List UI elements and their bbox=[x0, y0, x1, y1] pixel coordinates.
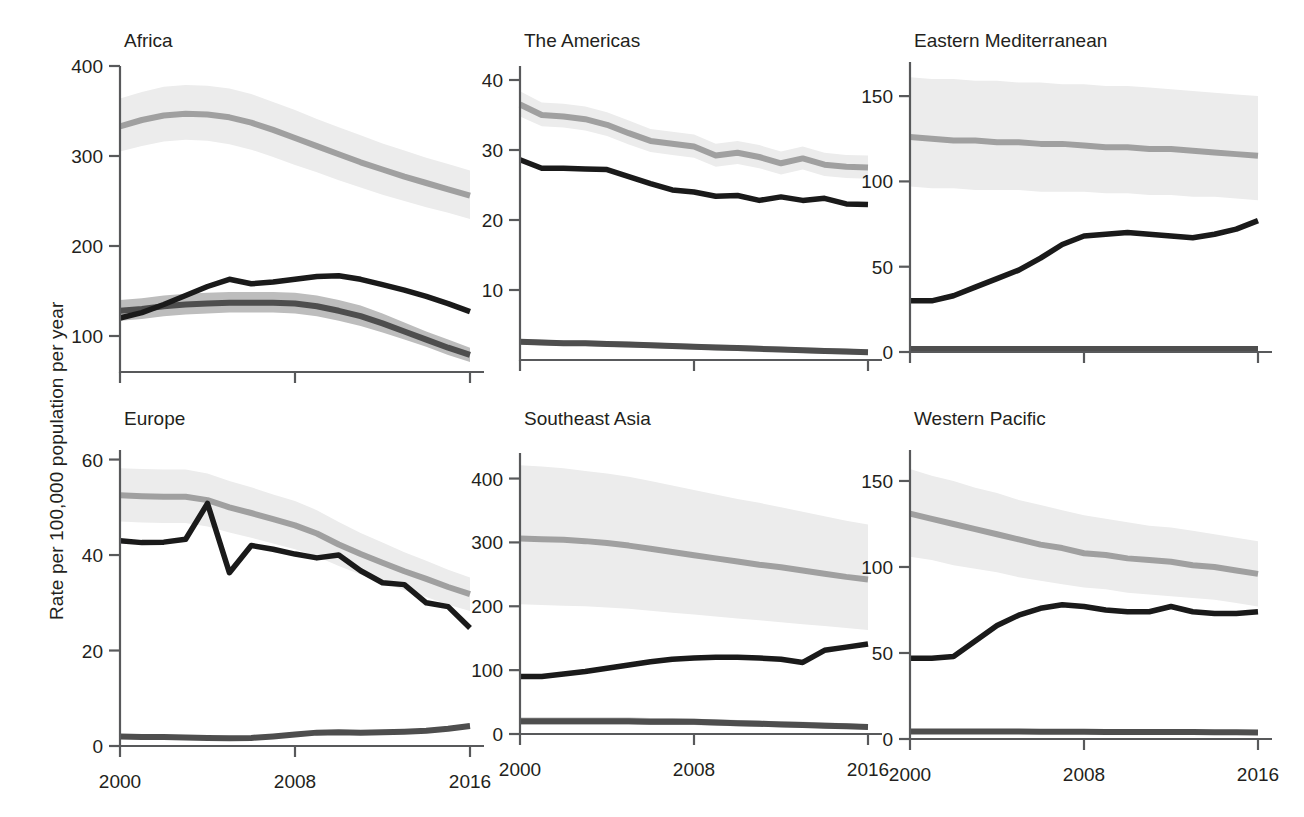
y-tick-label: 200 bbox=[471, 596, 503, 617]
y-tick-label: 150 bbox=[861, 471, 893, 492]
y-tick-label: 60 bbox=[82, 450, 103, 471]
panel-the-americas: The Americas10203040 bbox=[482, 30, 882, 371]
chart-figure: Rate per 100,000 population per year Afr… bbox=[0, 0, 1304, 817]
y-tick-label: 300 bbox=[71, 146, 103, 167]
y-tick-label: 0 bbox=[882, 342, 893, 363]
panel-europe: Europe0204060200020082016 bbox=[82, 408, 491, 792]
x-tick-label: 2008 bbox=[673, 759, 715, 780]
y-tick-label: 40 bbox=[482, 70, 503, 91]
x-tick-label: 2016 bbox=[847, 759, 889, 780]
y-tick-label: 0 bbox=[492, 724, 503, 745]
y-tick-label: 20 bbox=[482, 210, 503, 231]
y-tick-label: 300 bbox=[471, 532, 503, 553]
x-tick-label: 2000 bbox=[99, 771, 141, 792]
x-tick-label: 2008 bbox=[1063, 764, 1105, 785]
panel-western-pacific: Western Pacific050100150200020082016 bbox=[861, 408, 1279, 785]
y-tick-label: 50 bbox=[872, 643, 893, 664]
panel-title: The Americas bbox=[524, 30, 640, 51]
line-series-dark bbox=[520, 644, 868, 677]
panel-title: Africa bbox=[124, 30, 173, 51]
x-tick-label: 2016 bbox=[1237, 764, 1279, 785]
uncertainty-band-series-light bbox=[910, 469, 1258, 607]
panel-title: Western Pacific bbox=[914, 408, 1046, 429]
line-series-mid bbox=[910, 731, 1258, 732]
panel-africa: Africa100200300400 bbox=[71, 30, 484, 383]
y-tick-label: 400 bbox=[71, 56, 103, 77]
panel-eastern-mediterranean: Eastern Mediterranean050100150 bbox=[861, 30, 1272, 363]
line-series-mid bbox=[520, 721, 868, 727]
x-tick-label: 2000 bbox=[889, 764, 931, 785]
y-tick-label: 200 bbox=[71, 236, 103, 257]
uncertainty-band-series-light bbox=[520, 91, 868, 179]
uncertainty-band-series-light bbox=[520, 465, 868, 630]
panels-svg: Africa100200300400The Americas10203040Ea… bbox=[0, 0, 1304, 817]
x-tick-label: 2016 bbox=[449, 771, 491, 792]
panel-southeast-asia: Southeast Asia0100200300400200020082016 bbox=[471, 408, 889, 780]
x-tick-label: 2008 bbox=[274, 771, 316, 792]
y-tick-label: 0 bbox=[92, 736, 103, 757]
y-tick-label: 100 bbox=[861, 557, 893, 578]
y-tick-label: 100 bbox=[71, 326, 103, 347]
y-tick-label: 30 bbox=[482, 140, 503, 161]
line-series-mid bbox=[520, 342, 868, 353]
y-tick-label: 100 bbox=[861, 171, 893, 192]
y-tick-label: 50 bbox=[872, 257, 893, 278]
line-series-mid bbox=[120, 726, 470, 738]
line-series-dark bbox=[910, 221, 1258, 301]
line-series-dark bbox=[910, 605, 1258, 658]
x-tick-label: 2000 bbox=[499, 759, 541, 780]
y-axis-label: Rate per 100,000 population per year bbox=[46, 302, 68, 620]
y-tick-label: 40 bbox=[82, 545, 103, 566]
y-tick-label: 400 bbox=[471, 469, 503, 490]
panel-title: Eastern Mediterranean bbox=[914, 30, 1107, 51]
y-tick-label: 100 bbox=[471, 660, 503, 681]
panel-title: Southeast Asia bbox=[524, 408, 651, 429]
y-tick-label: 10 bbox=[482, 280, 503, 301]
y-axis-label-container: Rate per 100,000 population per year bbox=[0, 0, 62, 817]
y-tick-label: 20 bbox=[82, 641, 103, 662]
y-tick-label: 0 bbox=[882, 729, 893, 750]
y-tick-label: 150 bbox=[861, 86, 893, 107]
panel-title: Europe bbox=[124, 408, 185, 429]
uncertainty-band-series-light bbox=[120, 85, 470, 219]
